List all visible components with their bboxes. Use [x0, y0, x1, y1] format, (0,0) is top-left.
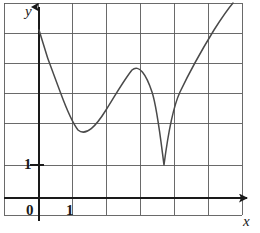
y-axis-label: y — [25, 4, 32, 19]
origin-label: 0 — [26, 203, 34, 218]
y-tick-label-one: 1 — [24, 157, 32, 172]
x-axis-label: x — [243, 214, 250, 229]
graph-figure: y x 0 1 1 — [0, 0, 260, 233]
x-tick-label-one: 1 — [66, 203, 74, 218]
function-curve — [39, 3, 233, 165]
graph-canvas — [0, 0, 260, 233]
